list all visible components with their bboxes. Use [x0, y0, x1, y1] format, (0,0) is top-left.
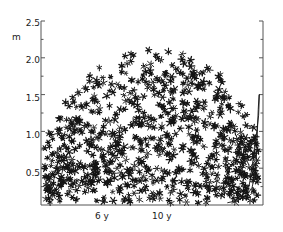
scatter-point	[223, 157, 231, 164]
scatter-point	[187, 167, 193, 173]
scatter-point	[125, 61, 131, 67]
scatter-point	[237, 128, 244, 136]
scatter-point	[143, 79, 150, 85]
scatter-point	[197, 71, 202, 76]
scatter-point	[124, 71, 128, 75]
scatter-point	[201, 99, 207, 104]
scatter-point	[87, 78, 92, 84]
scatter-point	[64, 125, 69, 130]
scatter-point	[222, 89, 227, 95]
scatter-point	[132, 191, 138, 196]
scatter-point	[165, 48, 171, 55]
scatter-point	[146, 61, 154, 68]
scatter-point	[236, 101, 241, 106]
scatter-point	[143, 137, 148, 142]
scatter-point	[120, 69, 124, 75]
scatter-point	[201, 86, 206, 91]
scatter-point	[119, 62, 125, 69]
scatter-point	[122, 107, 128, 112]
scatter-points-group	[42, 47, 261, 206]
scatter-point	[161, 88, 165, 93]
scatter-point	[157, 152, 162, 158]
scatter-point	[164, 185, 168, 190]
scatter-point	[111, 190, 116, 194]
scatter-point	[236, 110, 241, 114]
scatter-point	[73, 187, 80, 193]
scatter-point	[78, 178, 84, 185]
scatter-point	[220, 101, 224, 106]
scatter-point	[185, 125, 192, 130]
scatter-point	[207, 113, 213, 119]
scatter-point	[171, 146, 176, 152]
scatter-point	[45, 156, 50, 160]
scatter-point	[103, 93, 111, 99]
scatter-point	[184, 76, 190, 81]
scatter-point	[76, 89, 82, 96]
scatter-point	[151, 125, 157, 130]
right-axis-ticks	[259, 21, 263, 187]
scatter-point	[172, 130, 178, 137]
scatter-point	[178, 56, 185, 62]
scatter-point	[97, 65, 102, 71]
scatter-point	[179, 145, 186, 153]
scatter-point	[129, 59, 134, 64]
scatter-point	[196, 200, 202, 205]
scatter-point	[91, 85, 96, 90]
scatter-point	[249, 124, 257, 131]
scatter-point	[158, 94, 166, 100]
scatter-point	[146, 47, 152, 54]
scatter-point	[145, 142, 150, 148]
scatter-point	[142, 69, 148, 75]
scatter-point	[215, 86, 223, 93]
scatter-point	[48, 164, 53, 168]
scatter-point	[227, 95, 232, 100]
scatter-point	[64, 117, 69, 122]
scatter-point	[240, 114, 246, 120]
scatter-point	[121, 93, 126, 97]
scatter-point	[215, 164, 222, 170]
scatter-point	[109, 197, 116, 204]
scatter-point	[204, 160, 210, 166]
scatter-point	[190, 189, 197, 196]
scatter-point	[173, 112, 180, 118]
scatter-point	[144, 167, 151, 174]
scatter-point	[245, 112, 250, 117]
scatter-point	[140, 94, 147, 101]
scatter-point	[107, 102, 112, 109]
scatter-point	[178, 178, 185, 185]
scatter-point	[176, 197, 182, 204]
scatter-point	[74, 105, 78, 110]
left-axis-ticks	[41, 21, 45, 187]
scatter-point	[84, 148, 91, 153]
scatter-point	[90, 188, 95, 193]
scatter-point	[100, 199, 108, 205]
scatter-point	[136, 196, 143, 203]
scatter-point	[152, 92, 158, 97]
scatter-point	[153, 165, 160, 172]
plot-canvas	[0, 0, 283, 232]
scatter-point	[170, 63, 175, 68]
scatter-point	[100, 76, 105, 80]
scatter-point	[232, 128, 238, 135]
scatter-point	[170, 184, 175, 190]
scatter-point	[55, 159, 60, 164]
scatter-point	[159, 114, 164, 118]
scatter-point	[214, 193, 219, 198]
scatter-point	[62, 99, 68, 106]
scatter-point	[207, 81, 212, 86]
scatter-point	[95, 199, 100, 203]
scatter-point	[122, 156, 129, 164]
scatter-point	[203, 179, 209, 184]
scatter-point	[213, 157, 220, 163]
scatter-point	[89, 152, 95, 157]
scatter-point	[135, 108, 142, 113]
scatter-point	[114, 111, 118, 116]
scatter-point	[109, 81, 116, 88]
scatter-point	[127, 192, 132, 197]
scatter-point	[201, 144, 207, 150]
scatter-point	[108, 75, 112, 79]
scatter-point	[121, 85, 127, 92]
scatter-point	[134, 95, 140, 102]
scatter-point	[194, 128, 199, 133]
scatter-point	[136, 169, 142, 176]
